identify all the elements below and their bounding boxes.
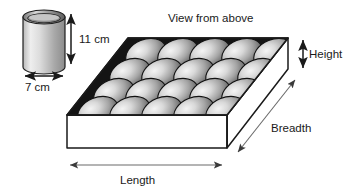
cylinder-figure [23, 10, 65, 74]
cylinder-diameter-label: 7 cm [25, 81, 50, 93]
cylinder-diameter-dimension: 7 cm [25, 76, 63, 93]
diagram-canvas: 11 cm 7 cm [0, 0, 350, 192]
box-front-face [67, 115, 227, 148]
height-label: Height [309, 48, 343, 60]
cylinder-top-inner-highlight [29, 14, 59, 21]
egg-tray-figure [67, 33, 299, 148]
height-dimension: Height [303, 40, 343, 68]
view-from-above-label: View from above [168, 12, 253, 24]
breadth-label: Breadth [271, 122, 311, 134]
cylinder-height-label: 11 cm [79, 33, 109, 45]
length-dimension: Length [70, 165, 222, 186]
cylinder-height-dimension: 11 cm [71, 14, 109, 64]
cylinder-body [23, 17, 65, 74]
length-label: Length [120, 174, 155, 186]
